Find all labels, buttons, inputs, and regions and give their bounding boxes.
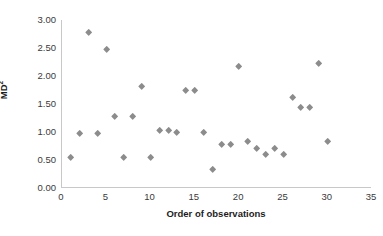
data-point-marker — [226, 141, 234, 149]
x-tick-label: 15 — [179, 191, 209, 203]
data-point-marker — [209, 166, 217, 174]
data-point-marker — [76, 130, 84, 138]
plot-area — [61, 20, 371, 188]
data-point-marker — [173, 129, 181, 137]
x-tick-label: 20 — [223, 191, 253, 203]
y-tick-label: 3.00 — [0, 15, 56, 25]
x-tick-label: 30 — [312, 191, 342, 203]
y-tick-label: 1.00 — [0, 127, 56, 137]
data-point-marker — [85, 29, 93, 37]
data-point-marker — [288, 94, 296, 102]
data-point-marker — [271, 145, 279, 153]
data-point-marker — [244, 138, 252, 146]
x-tick-label: 35 — [356, 191, 383, 203]
x-axis-tick-labels: 05101520253035 — [61, 191, 371, 205]
x-tick-label: 25 — [267, 191, 297, 203]
x-tick-label: 10 — [135, 191, 165, 203]
y-tick-label: 0.50 — [0, 155, 56, 165]
data-point-marker — [182, 87, 190, 95]
data-point-marker — [262, 151, 270, 159]
data-point-marker — [102, 46, 110, 54]
data-point-marker — [156, 127, 164, 135]
data-point-marker — [111, 113, 119, 121]
data-point-marker — [120, 154, 128, 162]
data-point-marker — [94, 130, 102, 138]
data-point-marker — [200, 129, 208, 137]
y-axis-title-superscript: 2 — [0, 81, 4, 85]
data-point-marker — [280, 151, 288, 159]
x-tick-label: 0 — [46, 191, 76, 203]
y-tick-label: 2.50 — [0, 43, 56, 53]
y-axis-title: MD2 — [0, 60, 9, 120]
data-point-marker — [306, 104, 314, 112]
data-point-marker — [315, 60, 323, 68]
data-point-marker — [164, 127, 172, 135]
data-point-marker — [253, 145, 261, 153]
data-point-marker — [129, 113, 137, 121]
data-point-marker — [138, 83, 146, 91]
data-point-marker — [67, 153, 75, 161]
x-tick-label: 5 — [90, 191, 120, 203]
data-point-marker — [191, 87, 199, 95]
data-point-marker — [218, 141, 226, 149]
data-point-marker — [297, 104, 305, 112]
y-axis-title-base: MD — [0, 85, 9, 100]
data-point-marker — [324, 138, 332, 146]
data-point-marker — [235, 63, 243, 71]
x-axis-title: Order of observations — [61, 208, 371, 219]
scatter-chart: 0.000.501.001.502.002.503.00 MD2 0510152… — [0, 0, 383, 236]
data-point-marker — [147, 154, 155, 162]
